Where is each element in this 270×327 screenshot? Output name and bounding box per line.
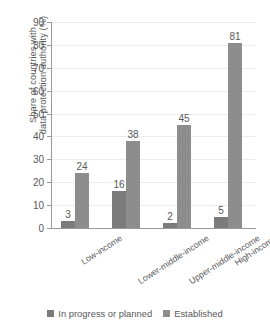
x-axis-category-label: High-income [233,233,270,268]
bar-value-label: 81 [229,31,240,42]
legend-swatch-in-progress-or-planned [47,310,54,317]
legend-label-established: Established [174,308,222,319]
y-axis-tick-label: 60 [33,85,44,96]
bar-value-label: 24 [76,161,87,172]
legend-label-in-progress-or-planned: In progress or planned [58,308,152,319]
plot-area: 01020304050607080903241638245581 [52,22,256,228]
y-axis-tick-label: 80 [33,39,44,50]
x-axis-category-label: Lower-middle-income [137,233,211,286]
bar-group: 245 [154,22,205,228]
bar-value-label: 3 [65,209,71,220]
y-axis-tick-label: 0 [38,223,44,234]
legend-swatch-established [163,310,170,317]
legend-item-established: Established [163,308,222,319]
y-axis-tick-label: 50 [33,108,44,119]
bar-value-label: 38 [127,129,138,140]
bar-group: 581 [205,22,256,228]
bar-chart: Share of countries with data protection … [0,0,270,327]
bar-value-label: 45 [178,113,189,124]
y-axis-tick-label: 40 [33,131,44,142]
x-axis-category-label: Low-income [80,233,124,267]
bar-value-label: 16 [113,179,124,190]
bar[interactable]: 38 [126,141,140,228]
bar[interactable]: 45 [177,125,191,228]
bar-group: 1638 [103,22,154,228]
bar[interactable]: 24 [75,173,89,228]
y-axis-tick-label: 20 [33,177,44,188]
y-axis-tick-label: 70 [33,62,44,73]
y-axis-tick-label: 30 [33,154,44,165]
y-axis-tick [47,228,52,229]
y-axis-tick-label: 10 [33,200,44,211]
bar-group: 324 [52,22,103,228]
x-axis-baseline [52,228,256,229]
bar[interactable]: 5 [214,217,228,228]
bar[interactable]: 81 [228,43,242,228]
legend: In progress or planned Established [0,308,270,319]
y-axis-tick-label: 90 [33,17,44,28]
bar-value-label: 5 [218,205,224,216]
legend-item-in-progress-or-planned: In progress or planned [47,308,152,319]
bar[interactable]: 2 [163,223,177,228]
bar[interactable]: 3 [61,221,75,228]
bar-value-label: 2 [167,211,173,222]
bar[interactable]: 16 [112,191,126,228]
x-axis-category-label: Upper-middle-income [188,233,262,286]
